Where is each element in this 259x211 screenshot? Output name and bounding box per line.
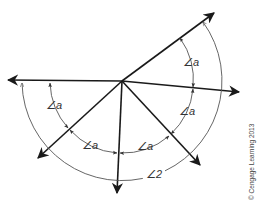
ray-left (8, 80, 122, 81)
label-angle-a-3: ∠a (137, 140, 153, 152)
label-angle-a-5: ∠a (46, 99, 62, 111)
label-angle-a-4: ∠a (82, 139, 98, 151)
rays (8, 13, 239, 193)
label-angle-a-1: ∠a (183, 56, 199, 68)
copyright-notice: © Cengage Learning 2013 (248, 123, 256, 200)
label-angle-2: ∠2 (146, 168, 162, 180)
angle-diagram: ∠a ∠a ∠a ∠a ∠a ∠2 © Cengage Learning 201… (0, 0, 259, 211)
ray-down (117, 81, 122, 193)
ray-upper-right (122, 13, 214, 81)
label-angle-a-2: ∠a (179, 105, 195, 117)
angle-labels: ∠a ∠a ∠a ∠a ∠a ∠2 (46, 56, 199, 182)
